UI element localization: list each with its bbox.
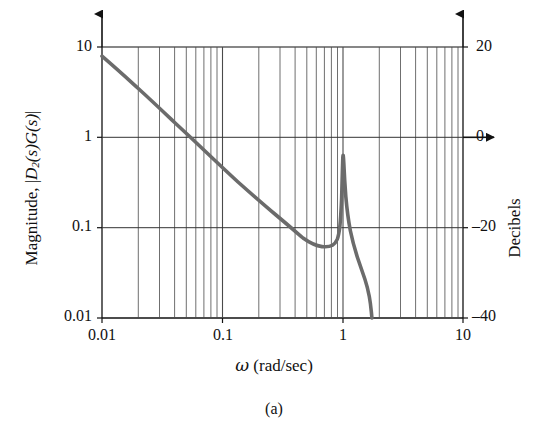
figure-caption: (a): [224, 400, 324, 418]
x-axis-label-units: (rad/sec): [249, 356, 313, 375]
y-axis-label-prefix: Magnitude,: [22, 183, 41, 265]
y2tick-label-20: 20: [476, 37, 536, 55]
right-axis-label: Decibels: [505, 168, 525, 288]
y-axis-label-s1: (s): [22, 144, 41, 162]
y-axis-label-subscript: 2: [29, 162, 41, 168]
horizontal-gridlines: [102, 137, 463, 227]
right-tick-marks: [463, 47, 468, 318]
right-axis-spine: [463, 14, 494, 137]
y2tick-label-minus20: –20: [472, 217, 536, 235]
y2tick-label-0: 0: [476, 127, 536, 145]
y-axis-label-s2: (s): [22, 114, 41, 132]
y-axis-label-G: G: [22, 132, 41, 144]
omega-symbol: ω: [235, 355, 249, 375]
x-axis-label: ω (rad/sec): [169, 355, 379, 376]
plot-frame: [102, 47, 463, 318]
y2tick-label-minus40: –40: [472, 307, 536, 325]
vertical-gridlines: [138, 47, 458, 318]
ytick-label-10: 10: [36, 37, 92, 55]
y-axis-label: Magnitude, |D2(s)G(s)|: [22, 63, 42, 313]
bottom-tick-marks: [102, 318, 463, 323]
y-axis-label-D: D: [22, 168, 41, 180]
ytick-label-1: 1: [36, 127, 92, 145]
bode-magnitude-figure: 10 1 0.1 0.01 20 0 –20 –40 0.01 0.1 1 10…: [0, 0, 548, 428]
xtick-label-0.01: 0.01: [67, 326, 137, 344]
xtick-label-10: 10: [435, 326, 491, 344]
xtick-label-1: 1: [318, 326, 368, 344]
y-axis-label-bar-close: |: [22, 111, 41, 114]
y-axis-label-bar-open: |: [22, 180, 41, 183]
xtick-label-0.1: 0.1: [192, 326, 254, 344]
left-tick-marks: [97, 47, 102, 318]
